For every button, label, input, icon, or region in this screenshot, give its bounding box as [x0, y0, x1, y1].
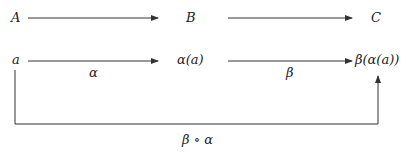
- node-a: a: [12, 53, 20, 66]
- node-C: C: [371, 11, 381, 24]
- edge-label-beta: β: [286, 66, 294, 79]
- arrow-composition: [15, 70, 378, 124]
- edge-label-composition: β ∘ α: [182, 133, 213, 146]
- node-alpha-a: α(a): [177, 53, 204, 66]
- node-beta-alpha-a: β(α(a)): [355, 53, 399, 66]
- commutative-diagram: A B C a α(a) β(α(a)) α β β ∘ α: [0, 0, 408, 155]
- node-B: B: [186, 11, 196, 24]
- edge-label-alpha: α: [89, 66, 98, 79]
- node-A: A: [11, 11, 20, 24]
